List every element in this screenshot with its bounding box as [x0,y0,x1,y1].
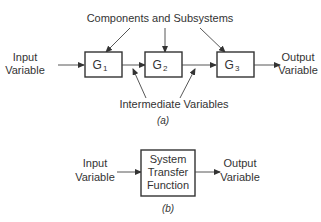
block-label-line3: Function [147,179,189,191]
intermediate-variables-label: Intermediate Variables [119,98,229,110]
pointer-arrow-g3 [200,28,225,52]
caption-a: (a) [157,115,169,126]
caption-b: (b) [162,203,174,214]
block-label-line1: System [150,153,187,165]
input-variable-label-line1: Input [13,51,37,63]
pointer-arrow-g1 [106,28,130,52]
diagram-b: Input Variable System Transfer Function … [75,150,260,214]
pointer-arrow-intermediate-1 [133,69,146,98]
input-variable-label-b-line1: Input [83,157,107,169]
output-variable-label-line2: Variable [278,64,318,76]
input-variable-label-b-line2: Variable [75,171,115,183]
components-subsystems-label: Components and Subsystems [87,12,234,24]
input-variable-label-line2: Variable [5,64,45,76]
output-variable-label-line1: Output [281,51,314,63]
block-diagram-figure: Components and Subsystems Input Variable… [0,0,321,222]
output-variable-label-b-line2: Variable [220,171,260,183]
diagram-a: Components and Subsystems Input Variable… [5,12,318,126]
output-variable-label-b-line1: Output [223,157,256,169]
block-label-line2: Transfer [148,166,189,178]
